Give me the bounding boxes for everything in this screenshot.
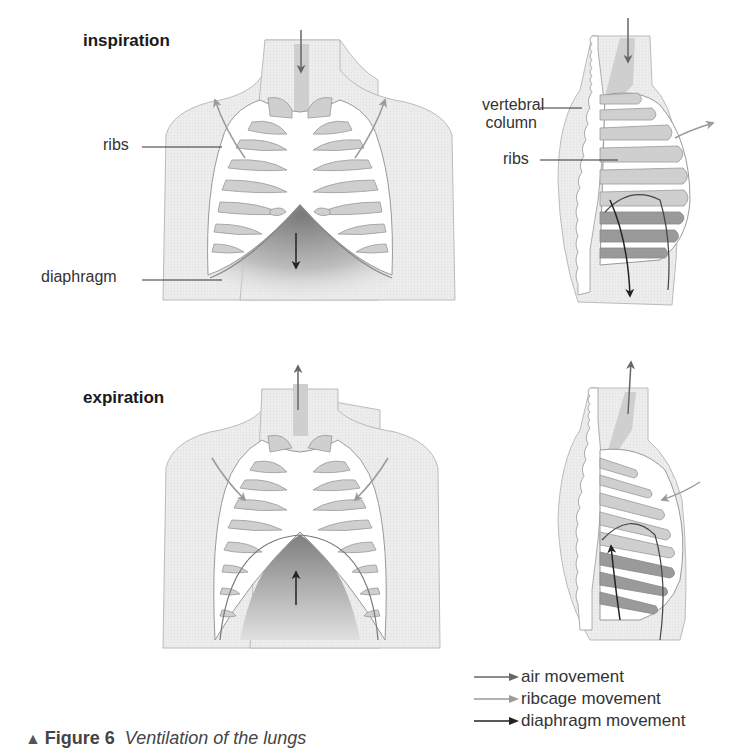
vertebral-column-label-line1: vertebral [482,96,537,114]
ventilation-diagram [0,0,747,755]
figure-number: Figure 6 [45,728,115,749]
legend-label-diaphragm: diaphragm movement [521,711,685,731]
figure-caption: ▲ Figure 6 Ventilation of the lungs [25,728,306,749]
ribs-label-side: ribs [503,150,529,168]
diaphragm-arrow-icon [474,716,519,726]
ribcage-arrow-icon [474,694,519,704]
diaphragm-label: diaphragm [41,268,117,286]
inspiration-side-view [540,18,713,305]
expiration-front-view [163,366,440,648]
legend-item-ribcage: ribcage movement [474,688,685,710]
triangle-icon: ▲ [25,730,41,748]
legend-item-air: air movement [474,666,685,688]
inspiration-heading: inspiration [83,31,170,51]
legend-item-diaphragm: diaphragm movement [474,710,685,732]
legend: air movement ribcage movement diaphragm … [474,666,685,732]
legend-label-ribcage: ribcage movement [521,689,661,709]
inspiration-front-view [142,30,455,305]
expiration-heading: expiration [83,388,164,408]
figure-title: Ventilation of the lungs [125,728,306,749]
vertebral-column-label-line2: column [482,114,537,132]
air-arrow-icon [474,672,519,682]
vertebral-column-label: vertebral column [482,96,537,132]
legend-label-air: air movement [521,667,624,687]
ribs-label-front: ribs [103,136,129,154]
expiration-side-view [558,362,700,640]
